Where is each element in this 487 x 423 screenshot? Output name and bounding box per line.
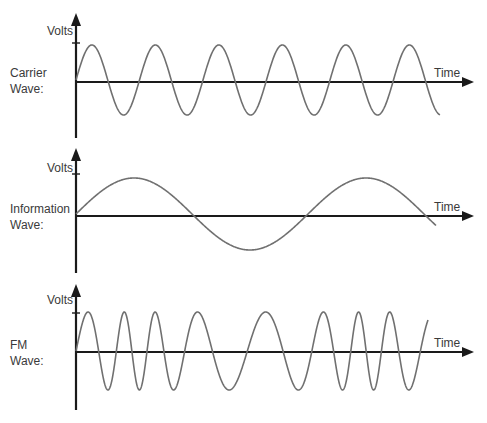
carrier-volts-label: Volts bbox=[47, 24, 73, 39]
carrier-panel bbox=[71, 13, 474, 138]
carrier-wave bbox=[76, 45, 440, 115]
information-y-arrow-icon bbox=[71, 148, 81, 161]
fm-time-label: Time bbox=[434, 336, 460, 351]
information-time-label: Time bbox=[434, 200, 460, 215]
fm-wave-label-line1: FM bbox=[10, 338, 27, 353]
fm-x-arrow-icon bbox=[462, 347, 474, 357]
fm-panel bbox=[71, 284, 474, 410]
information-x-arrow-icon bbox=[462, 211, 474, 221]
carrier-time-label: Time bbox=[434, 66, 460, 81]
carrier-x-arrow-icon bbox=[462, 77, 474, 87]
fm-wave-label-line2: Wave: bbox=[10, 354, 44, 369]
information-volts-label: Volts bbox=[47, 161, 73, 176]
fm-diagram bbox=[0, 0, 487, 423]
carrier-wave-label-line1: Carrier bbox=[10, 66, 47, 81]
information-panel bbox=[71, 148, 474, 273]
information-wave bbox=[76, 178, 436, 250]
information-wave-label-line1: Information bbox=[10, 202, 70, 217]
carrier-wave-label-line2: Wave: bbox=[10, 82, 44, 97]
information-wave-label-line2: Wave: bbox=[10, 218, 44, 233]
fm-volts-label: Volts bbox=[47, 293, 73, 308]
